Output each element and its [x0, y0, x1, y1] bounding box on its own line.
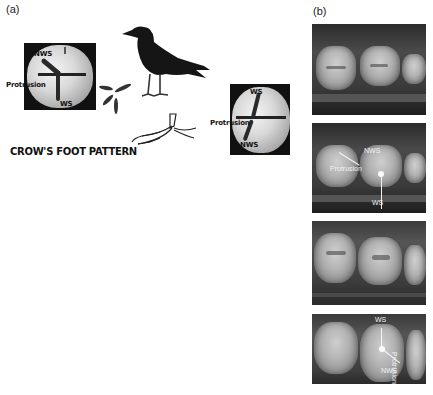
photo4-ws-label: WS — [375, 316, 386, 323]
right-protrusion-label: Protrusion — [210, 119, 250, 127]
left-ws-label: WS — [60, 100, 72, 108]
right-nws-label: NWS — [240, 141, 258, 149]
ws-line — [381, 328, 382, 348]
right-ws-label: WS — [250, 88, 262, 96]
photo2-protrusion-label: Protrusion — [330, 165, 362, 172]
crow-foot-icon — [130, 112, 200, 148]
clinical-photo-1 — [312, 24, 426, 115]
photo2-nws-label: NWS — [364, 147, 380, 154]
clinical-photo-4 — [312, 314, 426, 384]
photo4-nws-label: NWS — [381, 367, 397, 374]
photo2-ws-label: WS — [372, 199, 383, 206]
center-dot — [378, 171, 384, 177]
panel-b-label: (b) — [313, 5, 326, 17]
crow-icon — [118, 22, 213, 100]
crow-foot-pattern-caption: CROW'S FOOT PATTERN — [10, 145, 137, 157]
protrusion-mark — [38, 73, 86, 76]
center-dot — [379, 346, 385, 352]
left-protrusion-label: Protrusion — [6, 81, 46, 89]
panel-a-label: (a) — [6, 3, 19, 15]
left-nws-label: NWS — [34, 50, 52, 58]
clinical-photo-3 — [312, 221, 426, 305]
